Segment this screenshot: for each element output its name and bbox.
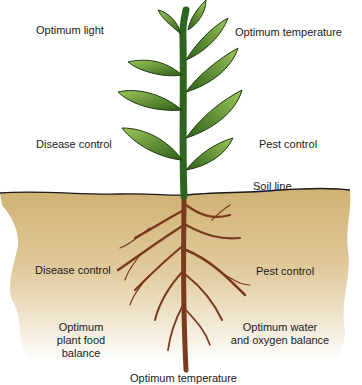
label-optimum-light: Optimum light bbox=[36, 24, 104, 37]
label-soil-line: Soil line bbox=[253, 180, 292, 193]
water-line-1: Optimum water bbox=[225, 321, 335, 334]
label-disease-control-bottom: Disease control bbox=[35, 264, 111, 277]
label-pest-control-top: Pest control bbox=[259, 138, 317, 151]
plant-food-line-2: plant food bbox=[50, 334, 112, 347]
label-pest-control-bottom: Pest control bbox=[256, 265, 314, 278]
water-line-2: and oxygen balance bbox=[225, 334, 335, 347]
label-optimum-temperature-bottom: Optimum temperature bbox=[130, 372, 237, 385]
label-optimum-temperature-top: Optimum temperature bbox=[235, 26, 342, 39]
label-water-oxygen-balance: Optimum water and oxygen balance bbox=[225, 321, 335, 347]
label-plant-food-balance: Optimum plant food balance bbox=[50, 321, 112, 360]
plant-food-line-1: Optimum bbox=[50, 321, 112, 334]
stem bbox=[183, 10, 186, 196]
label-disease-control-top: Disease control bbox=[36, 138, 112, 151]
plant-food-line-3: balance bbox=[50, 347, 112, 360]
